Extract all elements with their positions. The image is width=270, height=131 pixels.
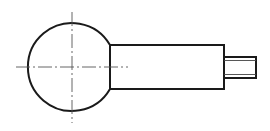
technical-drawing bbox=[0, 0, 270, 131]
drawing-canvas bbox=[0, 0, 270, 131]
